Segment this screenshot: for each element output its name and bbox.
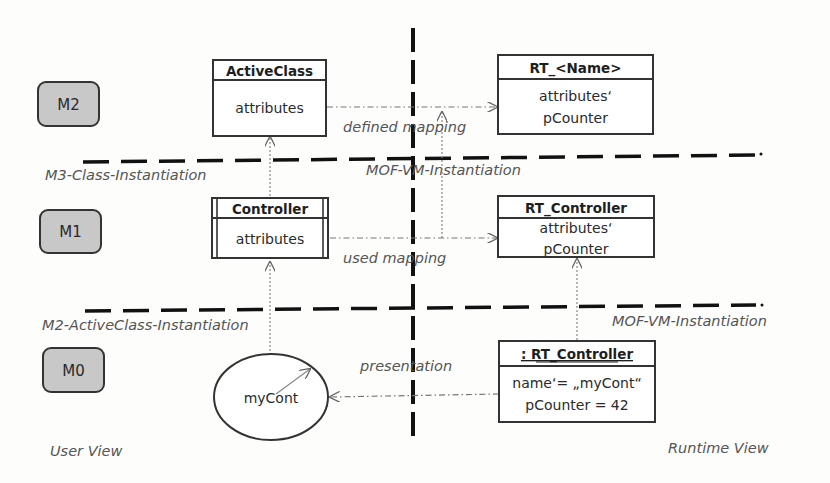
defined-mapping-label: defined mapping [343,119,466,135]
rt-controller-instance-title: : RT_Controller [521,346,633,363]
used-mapping-label: used mapping [343,250,446,266]
mof-vm-instantiation-bottom-label: MOF-VM-Instantiation [612,313,767,329]
level-m2-badge: M2 [38,82,99,126]
m2-m1-separator-line [83,155,756,162]
rt-controller-instance-pcounter: pCounter = 42 [525,397,628,413]
level-m1-badge: M1 [40,210,101,253]
rt-controller-title: RT_Controller [525,200,627,217]
activeclass-box: ActiveClass attributes [213,60,326,136]
m2-m1-separator-dot [760,153,763,156]
rt-controller-instance-box: : RT_Controller name‘= „myCont“ pCounter… [499,341,655,422]
presentation-label: presentation [359,358,452,374]
user-view-label: User View [50,443,123,459]
level-m0-badge: M0 [43,348,104,392]
rt-name-attributes: attributes‘ [539,88,612,104]
rt-controller-instance-name: name‘= „myCont“ [512,375,641,391]
rt-name-pcounter: pCounter [543,110,608,126]
activeclass-title: ActiveClass [226,63,313,79]
rt-controller-box: RT_Controller attributes‘ pCounter [498,196,654,257]
m1-m0-separator-line [85,305,756,311]
controller-box: Controller attributes [212,198,328,258]
m3-class-instantiation-label: M3-Class-Instantiation [45,167,207,183]
rt-controller-attributes: attributes‘ [540,220,613,236]
rt-name-box: RT_<Name> attributes‘ pCounter [498,55,653,134]
rt-name-title: RT_<Name> [529,60,621,77]
uml-metamodel-diagram: M2 M1 M0 M3-Class-Instantiation MOF-VM-I… [0,0,830,483]
controller-title: Controller [232,201,309,217]
activeclass-attributes: attributes [235,100,303,116]
controller-attributes: attributes [236,231,304,247]
level-m0-label: M0 [62,362,85,380]
m1-m0-separator-dot [761,304,764,307]
mycont-label: myCont [244,390,299,406]
mycont-ellipse: myCont [214,354,328,440]
runtime-view-label: Runtime View [668,440,769,456]
level-m2-label: M2 [57,96,80,114]
rt-controller-pcounter: pCounter [544,241,609,257]
level-m1-label: M1 [59,223,82,241]
mof-vm-instantiation-top-label: MOF-VM-Instantiation [366,162,521,178]
m2-activeclass-instantiation-label: M2-ActiveClass-Instantiation [42,317,249,333]
